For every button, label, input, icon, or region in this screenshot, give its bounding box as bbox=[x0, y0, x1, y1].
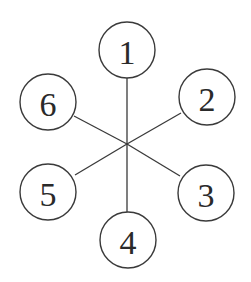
node-5: 5 bbox=[20, 164, 76, 220]
node-label-5: 5 bbox=[40, 176, 57, 213]
node-1: 1 bbox=[99, 22, 155, 78]
node-2: 2 bbox=[179, 69, 235, 125]
node-label-2: 2 bbox=[199, 81, 216, 118]
node-6: 6 bbox=[20, 74, 76, 130]
star-diagram: 1 2 3 4 5 6 bbox=[0, 0, 251, 282]
node-3: 3 bbox=[178, 165, 234, 221]
node-label-6: 6 bbox=[40, 86, 57, 123]
node-label-4: 4 bbox=[120, 224, 137, 261]
node-4: 4 bbox=[100, 212, 156, 268]
edge-hub-2 bbox=[127, 113, 181, 144]
edge-hub-3 bbox=[127, 144, 180, 176]
node-label-3: 3 bbox=[198, 177, 215, 214]
edges bbox=[74, 78, 181, 212]
node-label-1: 1 bbox=[119, 34, 136, 71]
edge-hub-6 bbox=[74, 116, 127, 144]
edge-hub-5 bbox=[75, 144, 127, 175]
